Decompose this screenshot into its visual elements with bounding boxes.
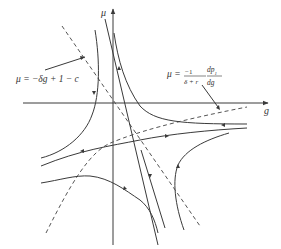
linear-isocline-pointer [45,57,85,70]
linear-isocline-dashed [62,26,200,226]
direction-arrows [80,66,225,190]
trajectory-upper-left [41,30,98,158]
mu-axis-label: μ [100,7,106,18]
frac1-numerator: −1 [185,68,193,76]
g-axis-label: g [264,105,269,116]
trajectory-lower-right [175,133,229,230]
frac1-denominator: δ + r [184,78,198,86]
arrow-lower-right [176,164,180,168]
arrow-upper-right [117,66,121,70]
arrow-lower-left [123,186,127,190]
trajectory-lower-left [41,176,158,233]
curved-isocline-dashed [46,107,247,233]
arrow-flat-right [165,134,169,138]
arrow-upper-left [92,91,96,95]
frac2-numerator: dp1 [207,65,217,76]
frac2-denominator: dg [207,78,215,87]
phase-diagram: μ g μ = −δg + 1 − c μ = −1 δ + r dp1 dg [0,0,281,249]
linear-isocline-label: μ = −δg + 1 − c [15,74,80,84]
curved-isocline-lhs: μ = [166,69,181,79]
curved-isocline-pointer [202,85,218,107]
